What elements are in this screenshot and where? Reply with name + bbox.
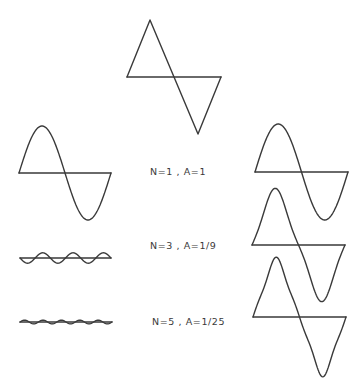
harmonic-n3 xyxy=(20,253,111,263)
harmonic-n1-label: N=1 , A=1 xyxy=(150,166,206,177)
harmonic-n5-label: N=5 , A=1/25 xyxy=(152,316,225,327)
partial-sum-1 xyxy=(255,124,348,220)
harmonic-n3-label: N=3 , A=1/9 xyxy=(150,240,217,251)
target-triangle-wave xyxy=(127,20,221,134)
harmonic-n1 xyxy=(19,126,111,220)
fourier-diagram xyxy=(0,0,364,389)
partial-sum-2 xyxy=(252,188,345,301)
partial-sum-3 xyxy=(253,257,346,377)
harmonic-n5 xyxy=(20,320,112,324)
